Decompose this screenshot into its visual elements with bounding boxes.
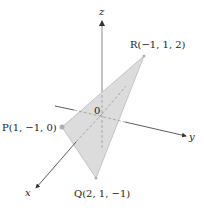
y-axis <box>125 122 186 136</box>
x-axis-label: x <box>25 187 31 198</box>
point-q-marker <box>95 177 98 180</box>
y-axis-back <box>55 106 74 110</box>
point-p-label: P(1, −1, 0) <box>2 122 57 133</box>
origin-label: 0 <box>94 105 100 116</box>
point-r-marker <box>143 55 146 58</box>
point-p-marker <box>60 125 65 130</box>
point-r-label: R(−1, 1, 2) <box>130 39 186 50</box>
diagram-canvas: z y x 0 R(−1, 1, 2) P(1, −1, 0) Q(2, 1, … <box>0 0 204 210</box>
z-axis-label: z <box>98 6 105 17</box>
x-axis <box>36 142 76 188</box>
point-q-label: Q(2, 1, −1) <box>74 188 130 199</box>
triangle-pqr <box>62 56 144 178</box>
y-axis-label: y <box>188 131 195 142</box>
